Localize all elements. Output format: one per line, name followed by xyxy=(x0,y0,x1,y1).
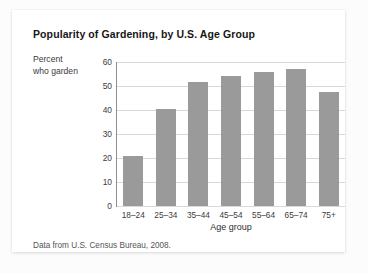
bar xyxy=(188,82,208,206)
bar xyxy=(221,76,241,206)
x-axis-tick-label: 45–54 xyxy=(219,210,242,220)
plot-area: 010203040506018–2425–3435–4445–5455–6465… xyxy=(117,62,345,206)
y-axis-label-line-2: who garden xyxy=(33,66,78,78)
gridline xyxy=(117,62,345,63)
source-note: Data from U.S. Census Bureau, 2008. xyxy=(33,241,171,250)
y-axis-tick-label: 20 xyxy=(103,153,112,163)
x-axis-label: Age group xyxy=(117,222,345,232)
bar xyxy=(319,92,339,206)
y-axis-label: Percent who garden xyxy=(33,54,78,77)
chart-card: Popularity of Gardening, by U.S. Age Gro… xyxy=(12,10,345,252)
gridline xyxy=(117,206,345,207)
x-axis-tick-label: 75+ xyxy=(322,210,336,220)
y-axis-tick-label: 0 xyxy=(107,201,112,211)
y-axis-tick-label: 30 xyxy=(103,129,112,139)
y-axis-tick-label: 60 xyxy=(103,57,112,67)
x-axis-tick-label: 35–44 xyxy=(187,210,210,220)
x-axis-tick-label: 25–34 xyxy=(154,210,177,220)
y-axis-tick-label: 50 xyxy=(103,81,112,91)
bar xyxy=(156,109,176,206)
bar xyxy=(254,72,274,206)
y-axis-tick-label: 10 xyxy=(103,177,112,187)
bar xyxy=(286,69,306,206)
x-axis-tick-label: 18–24 xyxy=(122,210,145,220)
bar xyxy=(123,156,143,206)
x-axis-tick-label: 65–74 xyxy=(285,210,308,220)
page-background: Popularity of Gardening, by U.S. Age Gro… xyxy=(0,0,368,273)
page-title: Popularity of Gardening, by U.S. Age Gro… xyxy=(33,28,255,40)
y-axis-tick-label: 40 xyxy=(103,105,112,115)
x-axis-tick-label: 55–64 xyxy=(252,210,275,220)
y-axis-label-line-1: Percent xyxy=(33,54,78,66)
